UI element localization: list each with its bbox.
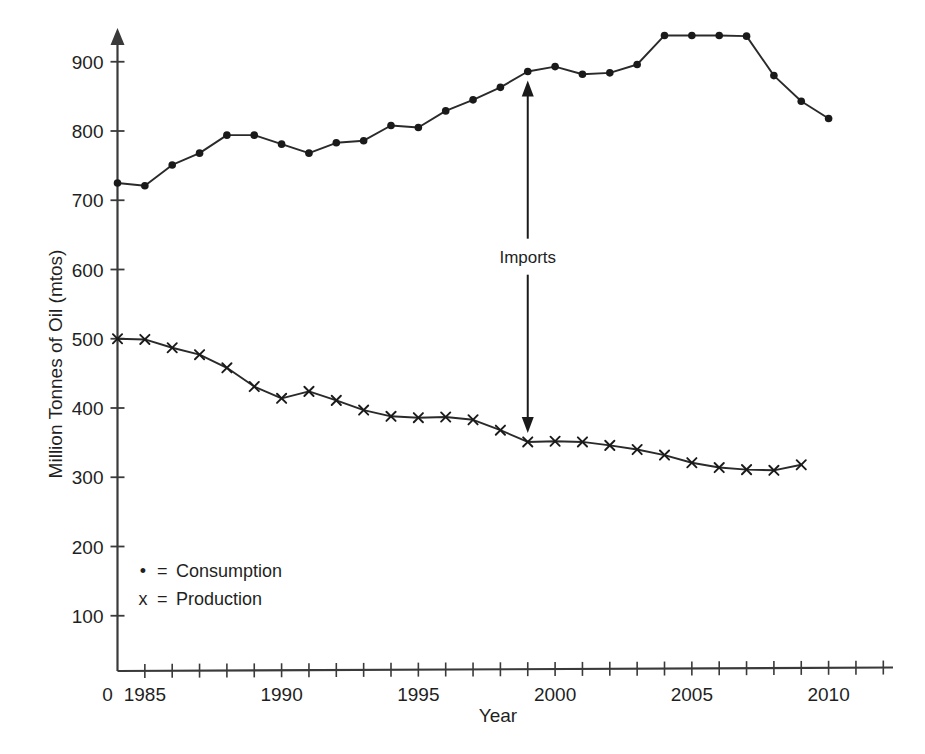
series-consumption	[114, 32, 833, 190]
data-point-marker	[168, 161, 176, 169]
y-axis-tick-label: 400	[72, 398, 104, 419]
data-point-marker	[250, 131, 258, 139]
y-axis-title: Million Tonnes of Oil (mtos)	[45, 250, 66, 479]
data-point-marker	[415, 124, 423, 132]
data-point-marker	[360, 137, 368, 145]
data-point-marker	[661, 32, 669, 40]
data-point-marker	[551, 63, 559, 71]
data-point-marker	[223, 131, 231, 139]
y-axis-tick-label: 900	[72, 52, 104, 73]
data-point-marker	[497, 84, 505, 92]
legend-label: Consumption	[176, 561, 282, 581]
legend-equals-sign: =	[157, 589, 168, 609]
data-series-group	[113, 32, 832, 475]
data-point-marker	[797, 97, 805, 105]
imports-annotation-label: Imports	[499, 248, 556, 267]
imports-arrowhead-up	[522, 80, 534, 96]
cross-marker-icon: x	[139, 589, 148, 609]
x-axis-tick-label: 1985	[124, 684, 166, 705]
data-point-marker	[196, 149, 204, 157]
legend-item-production: x=Production	[139, 589, 263, 609]
dot-marker-icon: •	[140, 561, 146, 581]
y-axis-arrowhead	[111, 28, 125, 45]
line-chart-svg: 900800700600500400300200100 198519901995…	[0, 0, 925, 754]
y-axis-tick-label: 700	[72, 190, 104, 211]
data-point-marker	[305, 149, 313, 157]
series-line-production	[118, 339, 802, 471]
data-point-marker	[333, 139, 341, 147]
data-point-marker	[114, 179, 122, 187]
data-point-marker	[633, 61, 641, 69]
legend-item-consumption: •=Consumption	[140, 561, 282, 581]
imports-arrowhead-down	[522, 417, 534, 433]
annotations-group: Imports	[486, 80, 570, 432]
y-axis-tick-label: 200	[72, 537, 104, 558]
axis-titles-group: YearMillion Tonnes of Oil (mtos)	[45, 250, 518, 726]
chart-container: 900800700600500400300200100 198519901995…	[0, 0, 925, 754]
origin-label: 0	[102, 684, 113, 705]
data-point-marker	[825, 115, 833, 123]
x-axis-tick-label: 2010	[807, 684, 849, 705]
series-line-consumption	[118, 35, 829, 185]
x-axis-tick-label: 1990	[260, 684, 302, 705]
x-axis-line	[118, 668, 894, 672]
data-point-marker	[606, 69, 614, 77]
legend-group: •=Consumptionx=Production	[139, 561, 283, 609]
x-axis-tick-label: 1995	[397, 684, 439, 705]
y-axis-tick-label: 100	[72, 606, 104, 627]
y-axis-tick-label: 800	[72, 121, 104, 142]
data-point-marker	[278, 140, 286, 148]
x-axis-tick-label: 2000	[534, 684, 576, 705]
data-point-marker	[715, 32, 723, 40]
x-axis-tick-label: 2005	[671, 684, 713, 705]
data-point-marker	[141, 182, 149, 190]
data-point-marker	[743, 32, 751, 40]
x-axis-title: Year	[479, 705, 518, 726]
data-point-marker	[770, 72, 778, 80]
data-point-marker	[387, 122, 395, 130]
legend-label: Production	[176, 589, 262, 609]
data-point-marker	[524, 68, 532, 76]
legend-equals-sign: =	[157, 561, 168, 581]
data-point-marker	[469, 96, 477, 104]
y-axis-tick-label: 300	[72, 467, 104, 488]
y-axis-tick-label: 600	[72, 260, 104, 281]
series-production	[113, 334, 806, 475]
data-point-marker	[579, 70, 587, 78]
y-axis-tick-label: 500	[72, 329, 104, 350]
data-point-marker	[688, 32, 696, 40]
data-point-marker	[442, 107, 450, 115]
